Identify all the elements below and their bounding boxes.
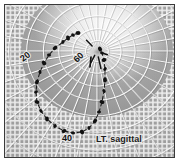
perimetry-figure: 20 60 40 LT. sagittal [0, 0, 179, 162]
label-bottom-meridian: 40 [62, 133, 72, 143]
bottom-meridian-label: 40 [62, 133, 72, 143]
label-layer: 20 60 40 LT. sagittal [5, 5, 174, 157]
chart-caption: LT. sagittal [96, 134, 142, 144]
label-caption: LT. sagittal [96, 134, 142, 144]
label-right-meridian: 60 [71, 50, 85, 64]
right-meridian-label: 60 [71, 50, 85, 64]
left-meridian-label: 20 [18, 50, 32, 64]
plot-frame: 20 60 40 LT. sagittal [4, 4, 175, 158]
label-left-meridian: 20 [18, 50, 32, 64]
